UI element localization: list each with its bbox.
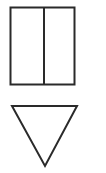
triangle-down-icon bbox=[12, 106, 77, 166]
split-rectangle bbox=[11, 8, 75, 85]
rectangle-outline bbox=[11, 8, 75, 85]
diagram-canvas bbox=[0, 0, 106, 173]
down-triangle bbox=[12, 106, 77, 166]
